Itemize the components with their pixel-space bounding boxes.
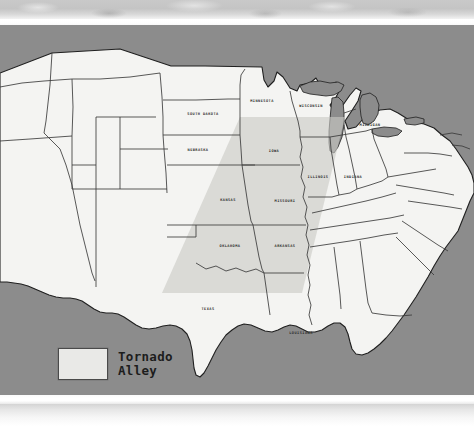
state-label-texas: TEXAS bbox=[201, 307, 214, 311]
state-label-nebraska: NEBRASKA bbox=[188, 148, 209, 152]
legend-label-line2: Alley bbox=[118, 364, 173, 378]
state-label-missouri: MISSOURI bbox=[275, 199, 296, 203]
legend-label: Tornado Alley bbox=[118, 350, 173, 378]
state-label-wisconsin: WISCONSIN bbox=[299, 104, 323, 108]
state-label-iowa: IOWA bbox=[269, 149, 280, 153]
legend-label-line1: Tornado bbox=[118, 350, 173, 364]
state-label-illinois: ILLINOIS bbox=[308, 175, 329, 179]
lake-ontario bbox=[404, 117, 424, 125]
state-label-michigan: MICHIGAN bbox=[360, 123, 381, 127]
state-label-oklahoma: OKLAHOMA bbox=[220, 244, 241, 248]
lake-erie bbox=[372, 127, 402, 137]
state-label-minnesota: MINNESOTA bbox=[250, 99, 274, 103]
legend-swatch-tornado-alley bbox=[58, 348, 108, 380]
united-states-map-svg: MINNESOTAWISCONSINMICHIGANSOUTH DAKOTANE… bbox=[0, 25, 474, 397]
top-texture-band bbox=[0, 0, 474, 19]
bottom-white-strip bbox=[0, 395, 474, 404]
state-label-arkansas: ARKANSAS bbox=[275, 244, 296, 248]
state-label-kansas: KANSAS bbox=[220, 198, 236, 202]
state-label-indiana: INDIANA bbox=[344, 175, 363, 179]
state-label-south-dakota: SOUTH DAKOTA bbox=[187, 112, 219, 116]
state-label-louisiana: LOUISIANA bbox=[289, 331, 313, 335]
bottom-fade-strip bbox=[0, 404, 474, 426]
map-legend: Tornado Alley bbox=[58, 348, 173, 380]
map-canvas: MINNESOTAWISCONSINMICHIGANSOUTH DAKOTANE… bbox=[0, 25, 474, 397]
map-figure: MINNESOTAWISCONSINMICHIGANSOUTH DAKOTANE… bbox=[0, 0, 474, 426]
